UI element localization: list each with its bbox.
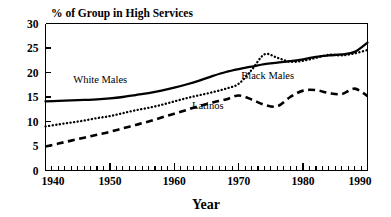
x-tick-label: 1950	[98, 175, 121, 187]
series-label-latinos: Latinos	[192, 100, 224, 111]
line-chart: 051015202530 194019501960197019801990 Wh…	[0, 0, 391, 217]
y-tick-label: 15	[27, 91, 39, 103]
series-line-white-males	[46, 43, 368, 102]
axes-group	[46, 24, 368, 171]
y-tick-label: 30	[27, 18, 39, 30]
x-tick-label: 1940	[42, 175, 65, 187]
chart-title: % of Group in High Services	[51, 7, 193, 20]
x-tick-label: 1990	[349, 175, 372, 187]
x-tick-label: 1970	[227, 175, 250, 187]
series-label-black-males: Black Males	[241, 70, 294, 81]
x-tick-label-group: 194019501960197019801990	[42, 175, 372, 187]
y-tick-label: 5	[33, 140, 39, 152]
series-line-latinos	[46, 89, 368, 147]
series-label-white-males: White Males	[73, 74, 127, 85]
y-tick-label-group: 051015202530	[27, 18, 39, 177]
series-line-black-males	[46, 50, 368, 126]
chart-container: 051015202530 194019501960197019801990 Wh…	[0, 0, 391, 217]
y-tick-label: 20	[27, 67, 39, 79]
y-tick-label: 10	[27, 116, 39, 128]
x-axis-title: Year	[192, 197, 220, 212]
series-group	[46, 43, 368, 147]
x-tick-label: 1960	[163, 175, 186, 187]
x-tick-label: 1980	[292, 175, 315, 187]
y-tick-label: 25	[27, 42, 39, 54]
y-tick-label: 0	[33, 165, 39, 177]
